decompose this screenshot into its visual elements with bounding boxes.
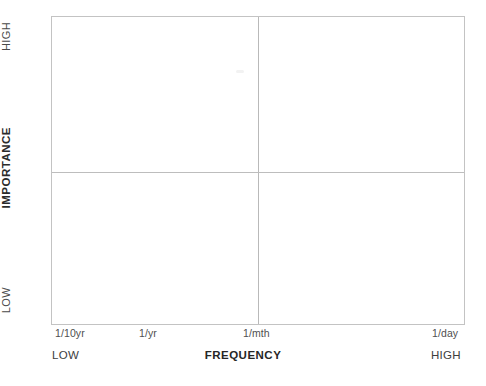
- x-axis-tick-label: 1/10yr: [55, 327, 85, 339]
- x-axis-tick-label: 1/yr: [139, 327, 157, 339]
- x-axis-high-label: HIGH: [431, 349, 461, 361]
- x-axis-tick-row: 1/10yr 1/yr 1/mth 1/day: [0, 327, 486, 343]
- x-axis-tick-label: 1/mth: [243, 327, 270, 339]
- chart-plot-area: [51, 16, 465, 325]
- quadrant-divider-vertical: [258, 17, 259, 324]
- x-axis-tick-label: 1/day: [432, 327, 458, 339]
- x-axis-title: FREQUENCY: [0, 349, 486, 361]
- scan-artifact-mark: [236, 70, 244, 73]
- quadrant-divider-horizontal: [52, 172, 464, 173]
- y-axis-high-label: HIGH: [0, 22, 46, 51]
- x-axis-caption-row: LOW FREQUENCY HIGH: [0, 349, 486, 369]
- y-axis-title: IMPORTANCE: [0, 127, 46, 208]
- y-axis-low-label: LOW: [0, 287, 46, 313]
